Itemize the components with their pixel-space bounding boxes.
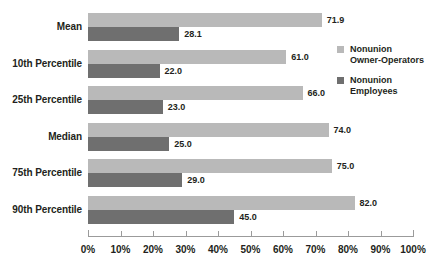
bar-row: 25.0 bbox=[88, 137, 413, 151]
bar-chart: Mean71.928.110th Percentile61.022.025th … bbox=[0, 0, 445, 272]
x-axis-tick-label: 100% bbox=[393, 244, 433, 255]
bar[interactable] bbox=[88, 86, 303, 100]
bar-row: 82.0 bbox=[88, 196, 413, 210]
bar-value-label: 22.0 bbox=[160, 64, 183, 78]
x-axis-tick bbox=[348, 231, 349, 236]
bar[interactable] bbox=[88, 100, 163, 114]
bar[interactable] bbox=[88, 64, 160, 78]
bar-value-label: 25.0 bbox=[169, 137, 192, 151]
bar-value-label: 82.0 bbox=[355, 196, 378, 210]
bar-row: 74.0 bbox=[88, 123, 413, 137]
bar-value-label: 29.0 bbox=[182, 173, 205, 187]
category-label: 25th Percentile bbox=[0, 85, 82, 115]
legend-swatch-icon bbox=[337, 46, 344, 53]
bar[interactable] bbox=[88, 137, 169, 151]
bar-row: 29.0 bbox=[88, 173, 413, 187]
bar-value-label: 23.0 bbox=[163, 100, 186, 114]
plot-area: Mean71.928.110th Percentile61.022.025th … bbox=[0, 0, 445, 272]
bar-group: Mean71.928.1 bbox=[0, 12, 445, 42]
x-axis-tick bbox=[283, 231, 284, 236]
x-axis-tick bbox=[413, 230, 414, 237]
x-axis-tick bbox=[153, 231, 154, 236]
category-label: Mean bbox=[0, 12, 82, 42]
category-label: 10th Percentile bbox=[0, 49, 82, 79]
legend: NonunionOwner-OperatorsNonunionEmployees bbox=[337, 44, 424, 106]
bar-row: 75.0 bbox=[88, 159, 413, 173]
bar-value-label: 66.0 bbox=[303, 86, 326, 100]
x-axis bbox=[88, 236, 413, 237]
x-axis-tick bbox=[381, 231, 382, 236]
bar-row: 28.1 bbox=[88, 27, 413, 41]
x-axis-tick bbox=[316, 231, 317, 236]
bar-group: Median74.025.0 bbox=[0, 122, 445, 152]
legend-item[interactable]: NonunionOwner-Operators bbox=[337, 44, 424, 66]
category-label: 90th Percentile bbox=[0, 195, 82, 225]
legend-label: Employees bbox=[350, 86, 424, 97]
x-axis-tick bbox=[121, 231, 122, 236]
bar[interactable] bbox=[88, 196, 355, 210]
bar[interactable] bbox=[88, 123, 329, 137]
legend-label: Nonunion bbox=[350, 44, 424, 55]
legend-label: Nonunion bbox=[350, 75, 424, 86]
bar[interactable] bbox=[88, 210, 234, 224]
bar-value-label: 61.0 bbox=[286, 50, 309, 64]
bar-group: 90th Percentile82.045.0 bbox=[0, 195, 445, 225]
bar-row: 71.9 bbox=[88, 13, 413, 27]
bar-group: 75th Percentile75.029.0 bbox=[0, 158, 445, 188]
bar-value-label: 28.1 bbox=[179, 27, 202, 41]
bar-value-label: 45.0 bbox=[234, 210, 257, 224]
bar[interactable] bbox=[88, 159, 332, 173]
bar[interactable] bbox=[88, 50, 286, 64]
bar-value-label: 74.0 bbox=[329, 123, 352, 137]
bar[interactable] bbox=[88, 13, 322, 27]
category-label: 75th Percentile bbox=[0, 158, 82, 188]
x-axis-tick bbox=[186, 231, 187, 236]
legend-swatch-icon bbox=[337, 77, 344, 84]
category-label: Median bbox=[0, 122, 82, 152]
bar[interactable] bbox=[88, 173, 182, 187]
bar-row: 45.0 bbox=[88, 210, 413, 224]
legend-item[interactable]: NonunionEmployees bbox=[337, 75, 424, 97]
bar-value-label: 71.9 bbox=[322, 13, 345, 27]
bar[interactable] bbox=[88, 27, 179, 41]
bar-value-label: 75.0 bbox=[332, 159, 355, 173]
legend-label: Owner-Operators bbox=[350, 55, 424, 66]
x-axis-tick bbox=[251, 231, 252, 236]
x-axis-tick bbox=[218, 231, 219, 236]
x-axis-tick bbox=[88, 230, 89, 237]
